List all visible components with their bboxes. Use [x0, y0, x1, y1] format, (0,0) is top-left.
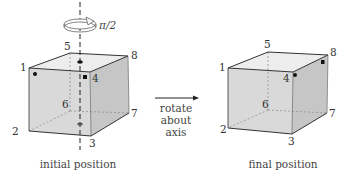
final-cube: 1 2 3 4 5 6 7 8 final position [219, 38, 337, 170]
vertex-label-8: 8 [330, 46, 337, 58]
front-face-dot [33, 72, 37, 76]
vertex-label-6: 6 [62, 98, 69, 110]
vertex-label-4: 4 [92, 72, 99, 84]
arrow-text-line2: about [161, 114, 192, 126]
vertex-label-4: 4 [283, 72, 290, 84]
vertex-label-6: 6 [262, 98, 269, 110]
vertex-label-5: 5 [64, 40, 71, 52]
vertex-label-7: 7 [131, 107, 138, 119]
front-face [29, 68, 91, 136]
vertex-label-1: 1 [219, 61, 226, 73]
square-mark [321, 60, 325, 64]
vertex-label-3: 3 [89, 137, 96, 149]
square-mark [83, 75, 87, 79]
initial-caption: initial position [40, 158, 117, 170]
vertex-label-3: 3 [288, 135, 295, 147]
side-face-dot [293, 73, 297, 77]
vertex-label-1: 1 [20, 61, 27, 73]
vertex-label-5: 5 [264, 38, 271, 50]
arrow-text-line3: axis [166, 126, 187, 138]
arrow-head-icon [193, 96, 199, 101]
cube-rotation-diagram: π/2 1 2 3 4 5 6 7 8 initial position rot… [0, 0, 354, 181]
final-caption: final position [248, 158, 317, 170]
transition-arrow: rotate about axis [155, 96, 199, 139]
initial-cube: π/2 1 2 3 4 5 6 7 8 initial position [12, 2, 138, 170]
vertex-label-7: 7 [329, 107, 336, 119]
rotation-angle-label: π/2 [98, 19, 116, 31]
vertex-label-8: 8 [131, 49, 138, 61]
vertex-label-2: 2 [12, 125, 19, 137]
bottom-face-dot [77, 122, 83, 125]
arrow-text-line1: rotate [160, 102, 192, 114]
top-face-dot [77, 60, 83, 64]
vertex-label-2: 2 [220, 123, 227, 135]
